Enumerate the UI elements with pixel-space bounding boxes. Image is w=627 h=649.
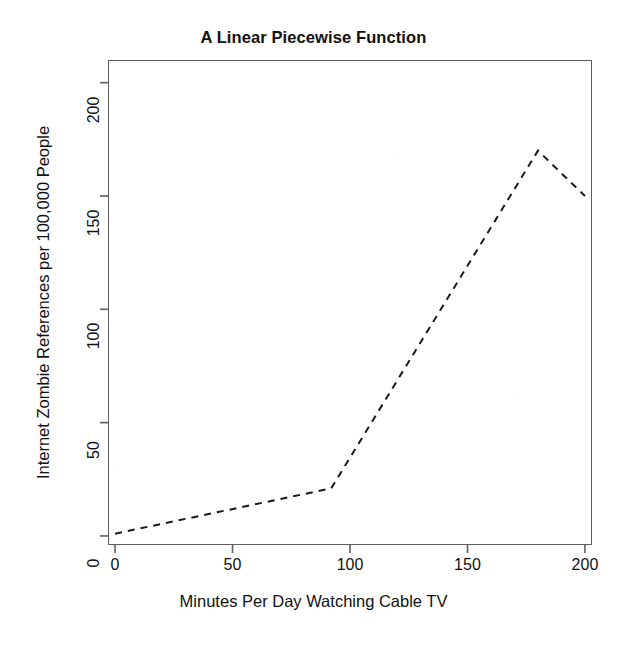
chart-title: A Linear Piecewise Function [0, 28, 627, 47]
data-line-piecewise [115, 151, 585, 534]
plot-area [108, 60, 592, 545]
y-tick-label: 150 [85, 196, 103, 250]
x-axis-title: Minutes Per Day Watching Cable TV [0, 592, 627, 611]
y-tick-label: 100 [85, 309, 103, 363]
y-tick-label: 200 [85, 83, 103, 137]
x-tick-label: 100 [320, 556, 380, 574]
y-tick-label: 50 [85, 423, 103, 477]
x-tick-label: 0 [85, 556, 145, 574]
plot-svg [108, 60, 592, 545]
tick-marks [100, 83, 585, 553]
x-tick-label: 200 [555, 556, 615, 574]
x-tick-label: 150 [437, 556, 497, 574]
data-series-group [115, 151, 585, 534]
chart-figure: A Linear Piecewise Function 050100150200… [0, 0, 627, 649]
x-tick-label: 50 [203, 556, 263, 574]
y-axis-title: Internet Zombie References per 100,000 P… [34, 53, 53, 553]
